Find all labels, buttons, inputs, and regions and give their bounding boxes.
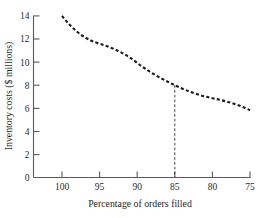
- y-tick-label-14: 14: [20, 11, 30, 21]
- x-tick-label-85: 85: [170, 182, 180, 192]
- x-tick-label-100: 100: [55, 182, 70, 192]
- x-tick-label-80: 80: [208, 182, 218, 192]
- inventory-costs-chart-figure: 14 12 10 8 6 4 2 0 100 95 90 85 80 75 Pe…: [0, 0, 262, 218]
- y-tick-label-12: 12: [20, 34, 30, 44]
- y-tick-label-6: 6: [25, 104, 30, 114]
- x-tick-label-75: 75: [245, 182, 255, 192]
- chart-plot-area: 14 12 10 8 6 4 2 0 100 95 90 85 80 75 Pe…: [0, 0, 262, 218]
- y-tick-label-4: 4: [25, 127, 30, 137]
- x-tick-label-90: 90: [132, 182, 142, 192]
- inventory-cost-curve: [62, 16, 250, 110]
- y-tick-label-8: 8: [25, 81, 30, 91]
- y-tick-label-10: 10: [20, 58, 30, 68]
- x-tick-label-95: 95: [95, 182, 105, 192]
- y-axis-title: Inventory costs ($ millions): [3, 42, 15, 151]
- y-tick-label-0: 0: [25, 173, 30, 183]
- y-tick-label-2: 2: [25, 150, 30, 160]
- x-axis-title: Percentage of orders filled: [88, 198, 192, 209]
